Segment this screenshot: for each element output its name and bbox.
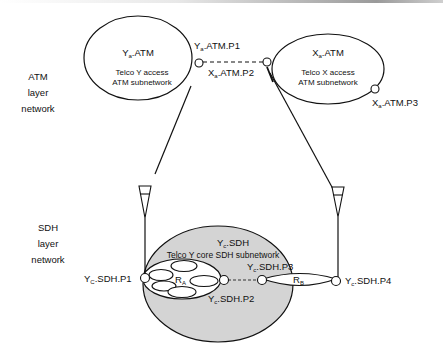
xa-atm-p3-port[interactable] (371, 85, 379, 93)
atm-link-left (155, 86, 191, 174)
svg-text:layer: layer (38, 238, 59, 249)
ya-atm-p1-label: Ya.ATM.P1 (194, 40, 240, 52)
svg-text:SDH: SDH (38, 222, 58, 233)
sdh-p4-port[interactable] (332, 277, 341, 286)
xa-atm-p2-port[interactable] (263, 58, 271, 66)
sdh-p1-label: YC.SDH.P1 (84, 273, 132, 285)
sdh-p1-port[interactable] (141, 274, 150, 283)
svg-text:ATM subnetwork: ATM subnetwork (112, 78, 172, 87)
ya-atm-p1-port[interactable] (195, 59, 203, 67)
svg-text:Telco Y access: Telco Y access (115, 68, 168, 77)
svg-text:ATM subnetwork: ATM subnetwork (298, 78, 358, 87)
svg-text:network: network (21, 103, 55, 114)
svg-text:Yc.SDH: Yc.SDH (217, 237, 249, 249)
ya-atm-subnetwork (84, 16, 192, 100)
sdh-layer-label: SDH layer network (31, 222, 65, 265)
svg-text:Ya.ATM: Ya.ATM (122, 47, 154, 59)
svg-text:layer: layer (28, 87, 49, 98)
sdh-p3-port[interactable] (258, 276, 267, 285)
sdh-p4-label: Yc.SDH.P4 (345, 275, 391, 287)
network-diagram: ATM layer network SDH layer network Ya.A… (0, 0, 443, 348)
svg-text:ATM: ATM (28, 71, 47, 82)
adaptation-icon-right (332, 187, 344, 279)
atm-layer-label: ATM layer network (21, 71, 55, 114)
xa-atm-p3-label: Xa.ATM.P3 (372, 97, 418, 109)
svg-text:Telco X access: Telco X access (301, 68, 354, 77)
svg-text:Xa.ATM: Xa.ATM (312, 47, 344, 59)
xa-atm-p2-label: Xa.ATM.P2 (208, 67, 254, 79)
svg-text:network: network (31, 254, 65, 265)
sdh-p2-port[interactable] (220, 276, 229, 285)
